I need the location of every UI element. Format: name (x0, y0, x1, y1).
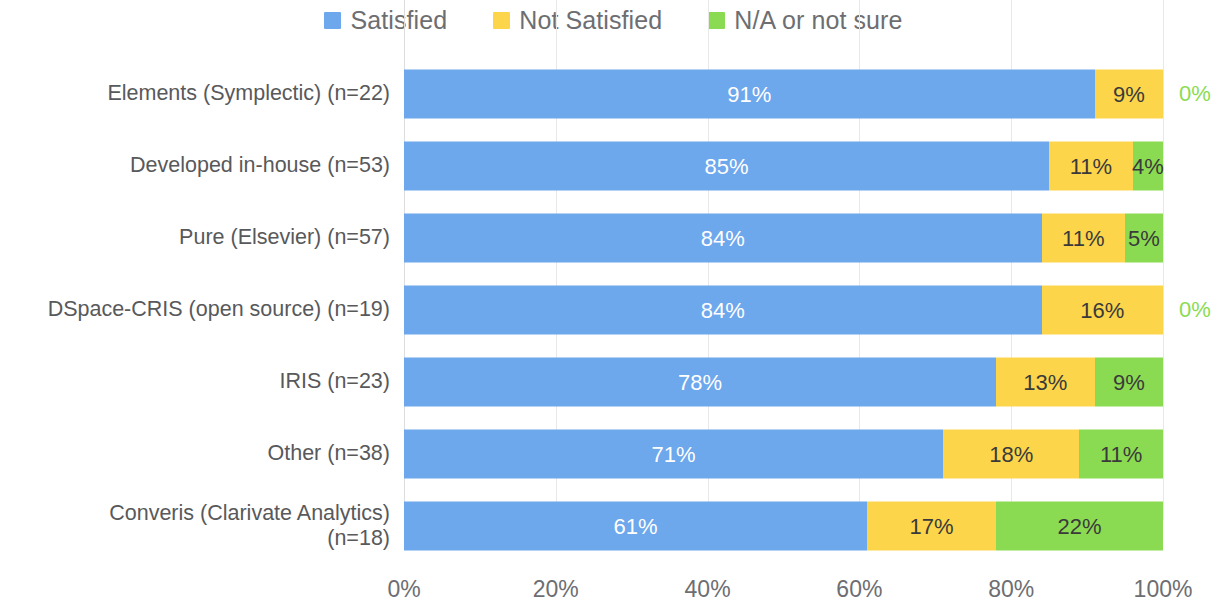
category-label: IRIS (n=23) (0, 369, 404, 394)
x-axis-tick-label: 60% (836, 576, 882, 603)
stacked-bar[interactable]: 91%9% (404, 70, 1163, 119)
legend-item-label: Not Satisfied (519, 8, 662, 33)
segment-value-label: 9% (1113, 369, 1145, 395)
square-swatch-icon (324, 12, 341, 29)
x-axis-tick-label: 80% (988, 576, 1034, 603)
legend-item-label: Satisfied (350, 8, 447, 33)
segment-value-label: 18% (989, 441, 1033, 467)
category-label: DSpace-CRIS (open source) (n=19) (0, 297, 404, 322)
bar-segment-satisfied[interactable]: 61% (404, 502, 867, 551)
bar-segment-satisfied[interactable]: 84% (404, 214, 1042, 263)
segment-value-label: 71% (651, 441, 695, 467)
bar-segment-not-satisfied[interactable]: 13% (996, 358, 1095, 407)
legend-item-label: N/A or not sure (734, 8, 902, 33)
square-swatch-icon (708, 12, 725, 29)
bar-segment-not-satisfied[interactable]: 9% (1095, 70, 1163, 119)
chart-row: IRIS (n=23)78%13%9% (0, 346, 1227, 418)
bar-segment-satisfied[interactable]: 78% (404, 358, 996, 407)
bar-segment-n-a-or-not-sure[interactable]: 22% (996, 502, 1163, 551)
bar-segment-not-satisfied[interactable]: 11% (1049, 142, 1132, 191)
segment-value-label: 11% (1100, 441, 1142, 467)
segment-value-label: 84% (701, 225, 745, 251)
x-axis-tick-label: 0% (387, 576, 420, 603)
bar-segment-satisfied[interactable]: 85% (404, 142, 1049, 191)
legend-item[interactable]: Not Satisfied (493, 8, 662, 33)
segment-value-label: 9% (1113, 81, 1145, 107)
segment-value-label: 4% (1132, 153, 1164, 179)
bar-container: 84%11%5% (404, 202, 1163, 274)
segment-value-label: 5% (1128, 225, 1160, 251)
bar-segment-n-a-or-not-sure[interactable]: 9% (1095, 358, 1163, 407)
bar-segment-not-satisfied[interactable]: 17% (867, 502, 996, 551)
stacked-bar[interactable]: 84%11%5% (404, 214, 1163, 263)
bar-segment-not-satisfied[interactable]: 11% (1042, 214, 1125, 263)
bar-container: 84%16%0% (404, 274, 1163, 346)
segment-value-label: 78% (678, 369, 722, 395)
bar-segment-n-a-or-not-sure[interactable]: 11% (1079, 430, 1162, 479)
x-axis-tick-label: 20% (533, 576, 579, 603)
stacked-bar[interactable]: 84%16% (404, 286, 1163, 335)
chart-row: DSpace-CRIS (open source) (n=19)84%16%0% (0, 274, 1227, 346)
category-label: Other (n=38) (0, 441, 404, 466)
stacked-bar[interactable]: 78%13%9% (404, 358, 1163, 407)
bar-container: 78%13%9% (404, 346, 1163, 418)
legend-item[interactable]: N/A or not sure (708, 8, 902, 33)
segment-value-label: 85% (705, 153, 749, 179)
stacked-bar-chart: SatisfiedNot SatisfiedN/A or not sure El… (0, 0, 1227, 613)
outside-value-label: 0% (1179, 297, 1211, 323)
stacked-bar[interactable]: 61%17%22% (404, 502, 1163, 551)
chart-row: Converis (Clarivate Analytics) (n=18)61%… (0, 490, 1227, 562)
chart-legend: SatisfiedNot SatisfiedN/A or not sure (0, 0, 1227, 40)
category-label: Elements (Symplectic) (n=22) (0, 81, 404, 106)
legend-item[interactable]: Satisfied (324, 8, 447, 33)
bar-segment-not-satisfied[interactable]: 16% (1042, 286, 1163, 335)
segment-value-label: 84% (701, 297, 745, 323)
segment-value-label: 16% (1080, 297, 1124, 323)
category-label: Converis (Clarivate Analytics) (n=18) (0, 501, 404, 552)
bar-container: 85%11%4% (404, 130, 1163, 202)
category-label: Pure (Elsevier) (n=57) (0, 225, 404, 250)
chart-row: Developed in-house (n=53)85%11%4% (0, 130, 1227, 202)
outside-value-label: 0% (1179, 81, 1211, 107)
stacked-bar[interactable]: 85%11%4% (404, 142, 1163, 191)
bar-container: 71%18%11% (404, 418, 1163, 490)
segment-value-label: 11% (1062, 225, 1104, 251)
bar-segment-satisfied[interactable]: 84% (404, 286, 1042, 335)
bar-segment-not-satisfied[interactable]: 18% (943, 430, 1080, 479)
chart-row: Elements (Symplectic) (n=22)91%9%0% (0, 58, 1227, 130)
chart-plot-area: Elements (Symplectic) (n=22)91%9%0%Devel… (0, 48, 1227, 568)
segment-value-label: 11% (1070, 153, 1112, 179)
bar-segment-satisfied[interactable]: 71% (404, 430, 943, 479)
bar-segment-n-a-or-not-sure[interactable]: 5% (1125, 214, 1163, 263)
x-axis-tick-label: 40% (685, 576, 731, 603)
square-swatch-icon (493, 12, 510, 29)
bar-segment-satisfied[interactable]: 91% (404, 70, 1095, 119)
chart-row: Pure (Elsevier) (n=57)84%11%5% (0, 202, 1227, 274)
x-axis-tick-labels: 0%20%40%60%80%100% (404, 568, 1163, 613)
category-label: Developed in-house (n=53) (0, 153, 404, 178)
bar-container: 61%17%22% (404, 490, 1163, 562)
stacked-bar[interactable]: 71%18%11% (404, 430, 1163, 479)
bar-segment-n-a-or-not-sure[interactable]: 4% (1133, 142, 1163, 191)
bar-container: 91%9%0% (404, 58, 1163, 130)
segment-value-label: 22% (1057, 513, 1101, 539)
segment-value-label: 13% (1023, 369, 1067, 395)
segment-value-label: 61% (613, 513, 657, 539)
segment-value-label: 91% (727, 81, 771, 107)
chart-row: Other (n=38)71%18%11% (0, 418, 1227, 490)
segment-value-label: 17% (909, 513, 953, 539)
x-axis-tick-label: 100% (1134, 576, 1193, 603)
